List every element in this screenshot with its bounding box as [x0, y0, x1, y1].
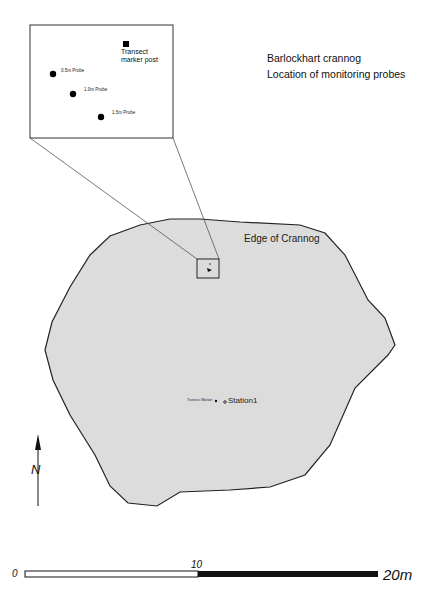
transect-marker-post-label: Transect marker post — [121, 48, 158, 64]
transect-marker-post-icon — [123, 41, 129, 47]
scale-bar-white-segment — [25, 571, 198, 577]
scale-bar-black-segment — [198, 571, 378, 577]
north-label: N — [31, 462, 40, 477]
marker-label-line1: Transect — [121, 48, 158, 56]
transect-marker-icon — [215, 400, 217, 402]
map-canvas — [0, 0, 433, 595]
inset-box — [30, 25, 173, 138]
probe-1-5m-icon — [98, 114, 104, 120]
edge-of-crannog-label: Edge of Crannog — [244, 233, 320, 244]
probe-0-5m-icon — [50, 71, 56, 77]
scale-mid-label: 10 — [191, 559, 202, 570]
map-title: Barlockhart crannog — [267, 52, 361, 64]
probe-1-0m-icon — [70, 91, 76, 97]
probe-0-5m-label: 0.5m Probe — [61, 68, 84, 73]
crannog-outline — [45, 219, 395, 506]
locator-marker-dot — [209, 263, 211, 265]
scale-start-label: 0 — [12, 568, 18, 579]
probe-1-0m-label: 1.0m Probe — [84, 87, 107, 92]
scale-end-label: 20m — [383, 566, 412, 583]
station-label: Station1 — [228, 396, 257, 405]
marker-label-line2: marker post — [121, 56, 158, 64]
probe-1-5m-label: 1.5m Probe — [112, 110, 135, 115]
map-subtitle: Location of monitoring probes — [267, 68, 405, 80]
transect-marker-label: Transect Marker — [187, 398, 212, 402]
north-arrow-icon — [35, 434, 41, 450]
